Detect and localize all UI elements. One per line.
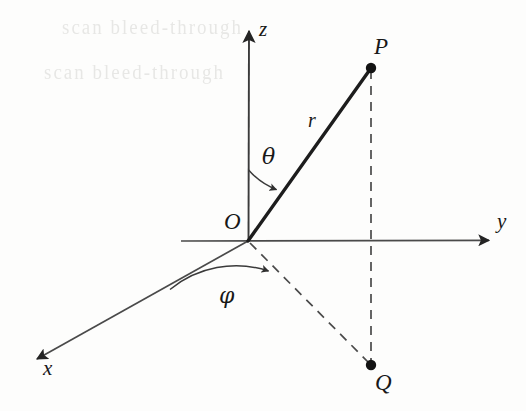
x-axis-line xyxy=(37,241,248,359)
point-label-q: Q xyxy=(375,371,392,394)
angle-label-phi: φ xyxy=(219,285,234,307)
point-Q-marker xyxy=(366,360,376,370)
z-axis-line xyxy=(249,31,250,241)
dashed-segment-OQ xyxy=(250,243,368,362)
point-P-marker xyxy=(366,63,376,73)
axis-label-x: x xyxy=(43,358,52,379)
point-label-p: P xyxy=(374,35,388,58)
spherical-coordinates-figure: scan bleed-through scan bleed-through xyxy=(0,0,526,411)
diagram-canvas xyxy=(0,0,526,411)
axis-label-y: y xyxy=(497,211,506,232)
radius-label-r: r xyxy=(308,110,316,130)
y-axis-line xyxy=(181,240,489,241)
point-label-o: O xyxy=(224,210,241,233)
angle-label-theta: θ xyxy=(262,146,275,168)
theta-angle-arc xyxy=(249,170,277,190)
axis-label-z: z xyxy=(259,19,267,40)
